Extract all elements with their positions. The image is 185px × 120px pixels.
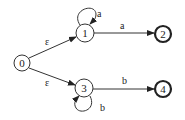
svg-text:ε: ε bbox=[45, 77, 49, 88]
edge-3-3-loop: b bbox=[75, 96, 105, 113]
edge-1-1-loop: a bbox=[78, 8, 102, 25]
state-3: 3 bbox=[75, 79, 93, 97]
svg-text:b: b bbox=[122, 75, 127, 86]
svg-text:a: a bbox=[97, 8, 102, 19]
automaton-diagram: ε ε a a b b 0 1 2 3 4 bbox=[0, 0, 185, 120]
state-0: 0 bbox=[14, 55, 30, 71]
edge-0-3: ε bbox=[29, 68, 75, 88]
svg-text:ε: ε bbox=[45, 36, 49, 47]
edge-3-4: b bbox=[93, 75, 154, 89]
edge-1-2: a bbox=[94, 20, 154, 33]
svg-text:a: a bbox=[120, 20, 125, 31]
svg-text:4: 4 bbox=[160, 83, 166, 95]
state-1: 1 bbox=[76, 24, 94, 42]
state-4-accepting: 4 bbox=[155, 81, 171, 97]
edge-0-1: ε bbox=[29, 36, 76, 58]
state-2-accepting: 2 bbox=[155, 26, 171, 42]
svg-text:0: 0 bbox=[19, 57, 25, 69]
svg-text:2: 2 bbox=[160, 28, 166, 40]
svg-text:1: 1 bbox=[82, 27, 88, 39]
svg-text:3: 3 bbox=[81, 82, 87, 94]
svg-text:b: b bbox=[100, 102, 105, 113]
